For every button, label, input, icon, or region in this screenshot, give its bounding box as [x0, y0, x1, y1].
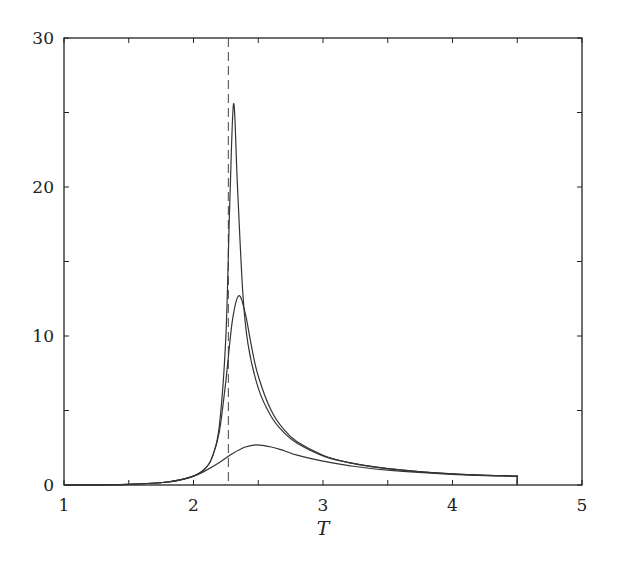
x-tick-label: 5	[577, 495, 588, 515]
x-tick-label: 4	[447, 495, 458, 515]
curve-high-peak	[64, 104, 517, 485]
line-chart: 12345 0102030 T	[0, 0, 620, 562]
x-tick-label: 1	[59, 495, 70, 515]
x-axis-label: T	[317, 517, 331, 539]
y-tick-label: 0	[43, 475, 54, 495]
x-tick-label: 2	[188, 495, 199, 515]
y-tick-label: 10	[32, 326, 54, 346]
y-axis-tick-labels: 0102030	[32, 28, 54, 495]
y-tick-label: 20	[32, 177, 54, 197]
curve-mid-peak	[64, 296, 517, 485]
x-tick-label: 3	[318, 495, 329, 515]
plot-area	[64, 38, 582, 485]
x-axis-tick-labels: 12345	[59, 495, 588, 515]
curve-low-peak	[64, 445, 517, 485]
y-tick-label: 30	[32, 28, 54, 48]
data-series	[64, 104, 517, 485]
plot-frame	[64, 38, 582, 485]
axis-ticks	[64, 38, 582, 485]
